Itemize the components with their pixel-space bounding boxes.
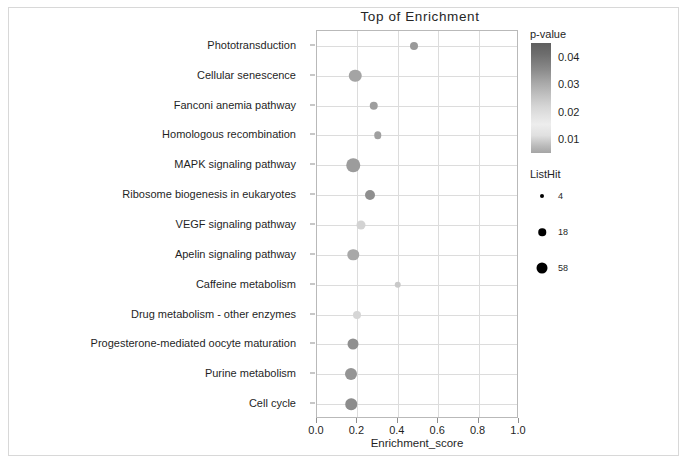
size-legend-dot <box>540 194 544 198</box>
chart-page: Top of Enrichment PhototransductionCellu… <box>0 0 691 465</box>
y-axis-tick-label: Phototransduction <box>207 39 296 50</box>
data-point[interactable] <box>369 101 378 110</box>
size-legend-label: 58 <box>558 263 568 273</box>
y-axis-tick-label: Cell cycle <box>249 398 296 409</box>
color-legend-tick-label: 0.04 <box>558 51 579 63</box>
x-axis-tick-mark <box>356 418 357 423</box>
gridline-vertical <box>398 31 399 417</box>
data-point[interactable] <box>374 132 382 140</box>
plot-area <box>316 30 518 418</box>
data-point[interactable] <box>395 281 402 288</box>
data-point[interactable] <box>349 70 362 83</box>
data-point[interactable] <box>410 42 418 50</box>
y-axis-tick-label: Drug metabolism - other enzymes <box>131 308 296 319</box>
x-axis-tick-label: 0.2 <box>349 424 364 436</box>
x-axis-tick-label: 0.4 <box>389 424 404 436</box>
y-axis-tick-mark <box>310 104 315 105</box>
data-point[interactable] <box>347 159 361 173</box>
color-legend-tick-label: 0.01 <box>558 133 579 145</box>
y-axis-tick-mark <box>310 134 315 135</box>
y-axis-tick-mark <box>310 253 315 254</box>
gridline-vertical <box>438 31 439 417</box>
y-axis-tick-mark <box>310 343 315 344</box>
data-point[interactable] <box>365 190 375 200</box>
y-axis-tick-label: Apelin signaling pathway <box>175 248 296 259</box>
color-legend-tick-label: 0.03 <box>558 78 579 90</box>
data-point[interactable] <box>348 249 360 261</box>
data-point[interactable] <box>346 398 358 410</box>
size-legend-dot <box>538 228 546 236</box>
size-legend-label: 4 <box>558 191 563 201</box>
y-axis-tick-mark <box>310 313 315 314</box>
gridline-horizontal <box>317 135 517 136</box>
y-axis-tick-label: VEGF signaling pathway <box>176 219 296 230</box>
x-axis-title: Enrichment_score <box>316 437 518 449</box>
x-axis-tick-mark <box>478 418 479 423</box>
data-point[interactable] <box>348 339 359 350</box>
y-axis-tick-mark <box>310 373 315 374</box>
data-point[interactable] <box>353 311 361 319</box>
gridline-horizontal <box>317 106 517 107</box>
y-axis-tick-label: Purine metabolism <box>205 368 296 379</box>
x-axis-tick-label: 0.6 <box>430 424 445 436</box>
data-point[interactable] <box>345 368 357 380</box>
x-axis-tick-mark <box>316 418 317 423</box>
x-axis-tick-mark <box>437 418 438 423</box>
legend-area: p-value ListHit 0.040.030.020.0141858 <box>528 28 678 318</box>
gridline-vertical <box>479 31 480 417</box>
page-title: Top of Enrichment <box>330 9 510 24</box>
y-axis-tick-mark <box>310 74 315 75</box>
y-axis-tick-label: MAPK signaling pathway <box>174 159 296 170</box>
y-axis-tick-label: Caffeine metabolism <box>196 278 296 289</box>
y-axis-tick-mark <box>310 194 315 195</box>
size-legend-dot <box>537 263 548 274</box>
y-axis: PhototransductionCellular senescenceFanc… <box>0 30 310 418</box>
color-legend-tick-label: 0.02 <box>558 106 579 118</box>
y-axis-tick-label: Progesterone-mediated oocyte maturation <box>91 338 296 349</box>
size-legend-label: 18 <box>558 227 568 237</box>
x-axis-tick-label: 0.0 <box>308 424 323 436</box>
y-axis-tick-mark <box>310 164 315 165</box>
x-axis-tick-mark <box>518 418 519 423</box>
y-axis-tick-label: Ribosome biogenesis in eukaryotes <box>122 189 296 200</box>
y-axis-tick-label: Cellular senescence <box>197 69 296 80</box>
color-legend-title: p-value <box>530 28 566 40</box>
y-axis-tick-label: Fanconi anemia pathway <box>174 99 296 110</box>
gridline-horizontal <box>317 315 517 316</box>
y-axis-tick-mark <box>310 283 315 284</box>
x-axis-tick-label: 1.0 <box>510 424 525 436</box>
gridline-horizontal <box>317 195 517 196</box>
x-axis-tick-mark <box>397 418 398 423</box>
gridline-horizontal <box>317 225 517 226</box>
data-point[interactable] <box>357 221 366 230</box>
gridline-horizontal <box>317 76 517 77</box>
color-legend-colorbar <box>531 43 551 153</box>
gridline-horizontal <box>317 285 517 286</box>
y-axis-tick-mark <box>310 44 315 45</box>
y-axis-tick-mark <box>310 403 315 404</box>
y-axis-tick-label: Homologous recombination <box>162 129 296 140</box>
x-axis-tick-label: 0.8 <box>470 424 485 436</box>
size-legend-title: ListHit <box>530 168 561 180</box>
y-axis-tick-mark <box>310 224 315 225</box>
